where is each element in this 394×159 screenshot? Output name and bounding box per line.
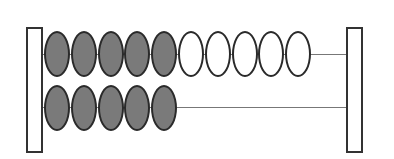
empty-bead [258,31,284,77]
filled-bead [124,31,150,77]
filled-bead [44,31,70,77]
filled-bead [71,85,97,131]
filled-bead [151,31,177,77]
empty-bead [205,31,231,77]
filled-bead [98,85,124,131]
filled-bead [71,31,97,77]
empty-bead [232,31,258,77]
right-frame [346,27,363,153]
filled-bead [124,85,150,131]
left-frame [26,27,43,153]
empty-bead [178,31,204,77]
filled-bead [44,85,70,131]
empty-bead [285,31,311,77]
filled-bead [151,85,177,131]
filled-bead [98,31,124,77]
